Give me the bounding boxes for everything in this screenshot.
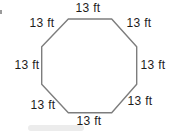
side-label-right: 13 ft (141, 59, 166, 71)
geometry-diagram: 13 ft 13 ft 13 ft 13 ft 13 ft 13 ft 13 f… (0, 0, 172, 131)
scan-artifact-dot (0, 10, 2, 14)
side-label-top: 13 ft (76, 2, 101, 14)
octagon-outline (42, 19, 137, 113)
side-label-bottom-left: 13 ft (31, 99, 56, 111)
side-label-top-right: 13 ft (127, 17, 152, 29)
side-label-left: 13 ft (15, 59, 40, 71)
scan-artifact-smudge (28, 125, 84, 131)
side-label-bottom-right: 13 ft (128, 95, 153, 107)
side-label-top-left: 13 ft (30, 17, 55, 29)
